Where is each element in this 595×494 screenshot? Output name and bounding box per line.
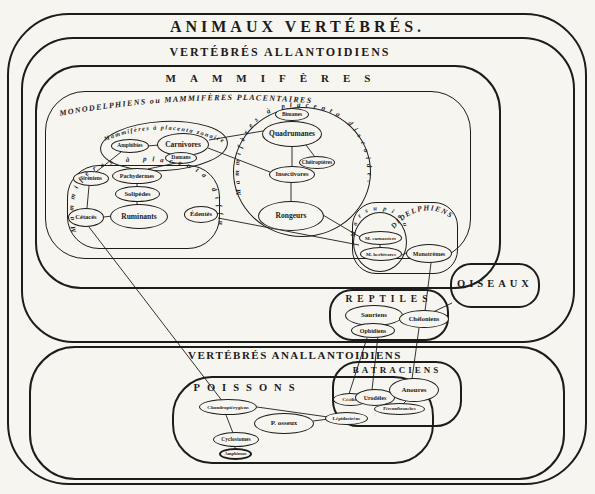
diagram-canvas: Amphibies Carnivores Damans Siréniens Pa… xyxy=(0,0,595,494)
taxon-m-carnassiers: M. carnassiers xyxy=(359,231,402,245)
taxon-solipedes: Solipèdes xyxy=(115,186,160,202)
group-title-allantoidiens: VERTÉBRÉS ALLANTOIDIENS xyxy=(100,45,460,60)
taxon-ruminants: Ruminants xyxy=(110,204,168,229)
group-title-anallantoidiens: VERTÉBRÉS ANALLANTOIDIENS xyxy=(110,349,480,361)
group-title-poissons: POISSONS xyxy=(185,382,310,393)
taxon-anoures: Anoures xyxy=(389,378,439,402)
group-title-batraciens: BATRACIENS xyxy=(336,365,458,375)
group-title-oiseaux: OISEAUX xyxy=(452,278,538,289)
taxon-bimanes: Bimanes xyxy=(275,108,309,121)
taxon-cheloniens: Chéloniens xyxy=(399,310,449,328)
group-title-mammiferes: MAMMIFÈRES xyxy=(95,72,455,84)
taxon-cetaces: Cétacés xyxy=(68,208,104,227)
taxon-insectivores: Insectivores xyxy=(269,166,315,183)
taxon-amphibies: Amphibies xyxy=(111,139,149,153)
diagram-title: ANIMAUX VERTÉBRÉS. xyxy=(0,18,595,36)
taxon-m-herbivores: M. herbivores xyxy=(360,247,402,261)
taxon-perennibranches: Pérennibranches xyxy=(374,403,425,415)
taxon-chondropterygiens: Chondroptérygiens xyxy=(199,399,257,415)
taxon-cyclostomes: Cyclostomes xyxy=(213,432,259,447)
taxon-pachydermes: Pachydermes xyxy=(112,168,162,184)
taxon-sireniens: Siréniens xyxy=(73,171,109,186)
group-title-reptiles: REPTILES xyxy=(332,294,446,304)
taxon-monotremes: Monotrèmes xyxy=(406,244,452,263)
taxon-amphioxus: Amphioxus xyxy=(219,448,252,460)
taxon-p-osseux: P. osseux xyxy=(254,413,314,434)
taxon-edentes: Édentés xyxy=(184,206,218,223)
taxon-quadrumanes: Quadrumanes xyxy=(262,121,322,147)
taxon-damans: Damans xyxy=(165,152,197,164)
taxon-rongeurs: Rongeurs xyxy=(258,201,324,231)
taxon-lepidosirene: Lépidosirène xyxy=(325,412,368,425)
taxon-ophidiens: Ophidiens xyxy=(351,323,395,338)
